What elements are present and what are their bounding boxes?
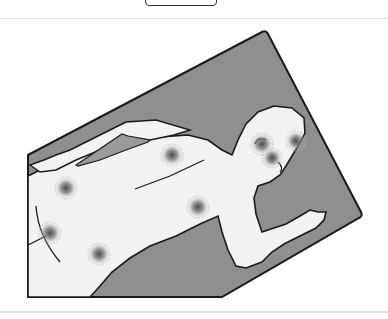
- pain-point-head-right: [286, 131, 306, 151]
- top-divider: [0, 18, 388, 19]
- pain-point-lower-back: [88, 243, 110, 265]
- body-pain-illustration: [0, 20, 388, 310]
- bottom-divider: [0, 311, 388, 313]
- pain-point-mid-back: [187, 196, 209, 218]
- pain-point-hip: [39, 222, 61, 244]
- pain-point-left-shoulder-blade: [55, 177, 77, 199]
- pain-point-cheek: [262, 148, 282, 168]
- top-button[interactable]: [145, 0, 217, 6]
- pain-point-upper-back: [161, 144, 183, 166]
